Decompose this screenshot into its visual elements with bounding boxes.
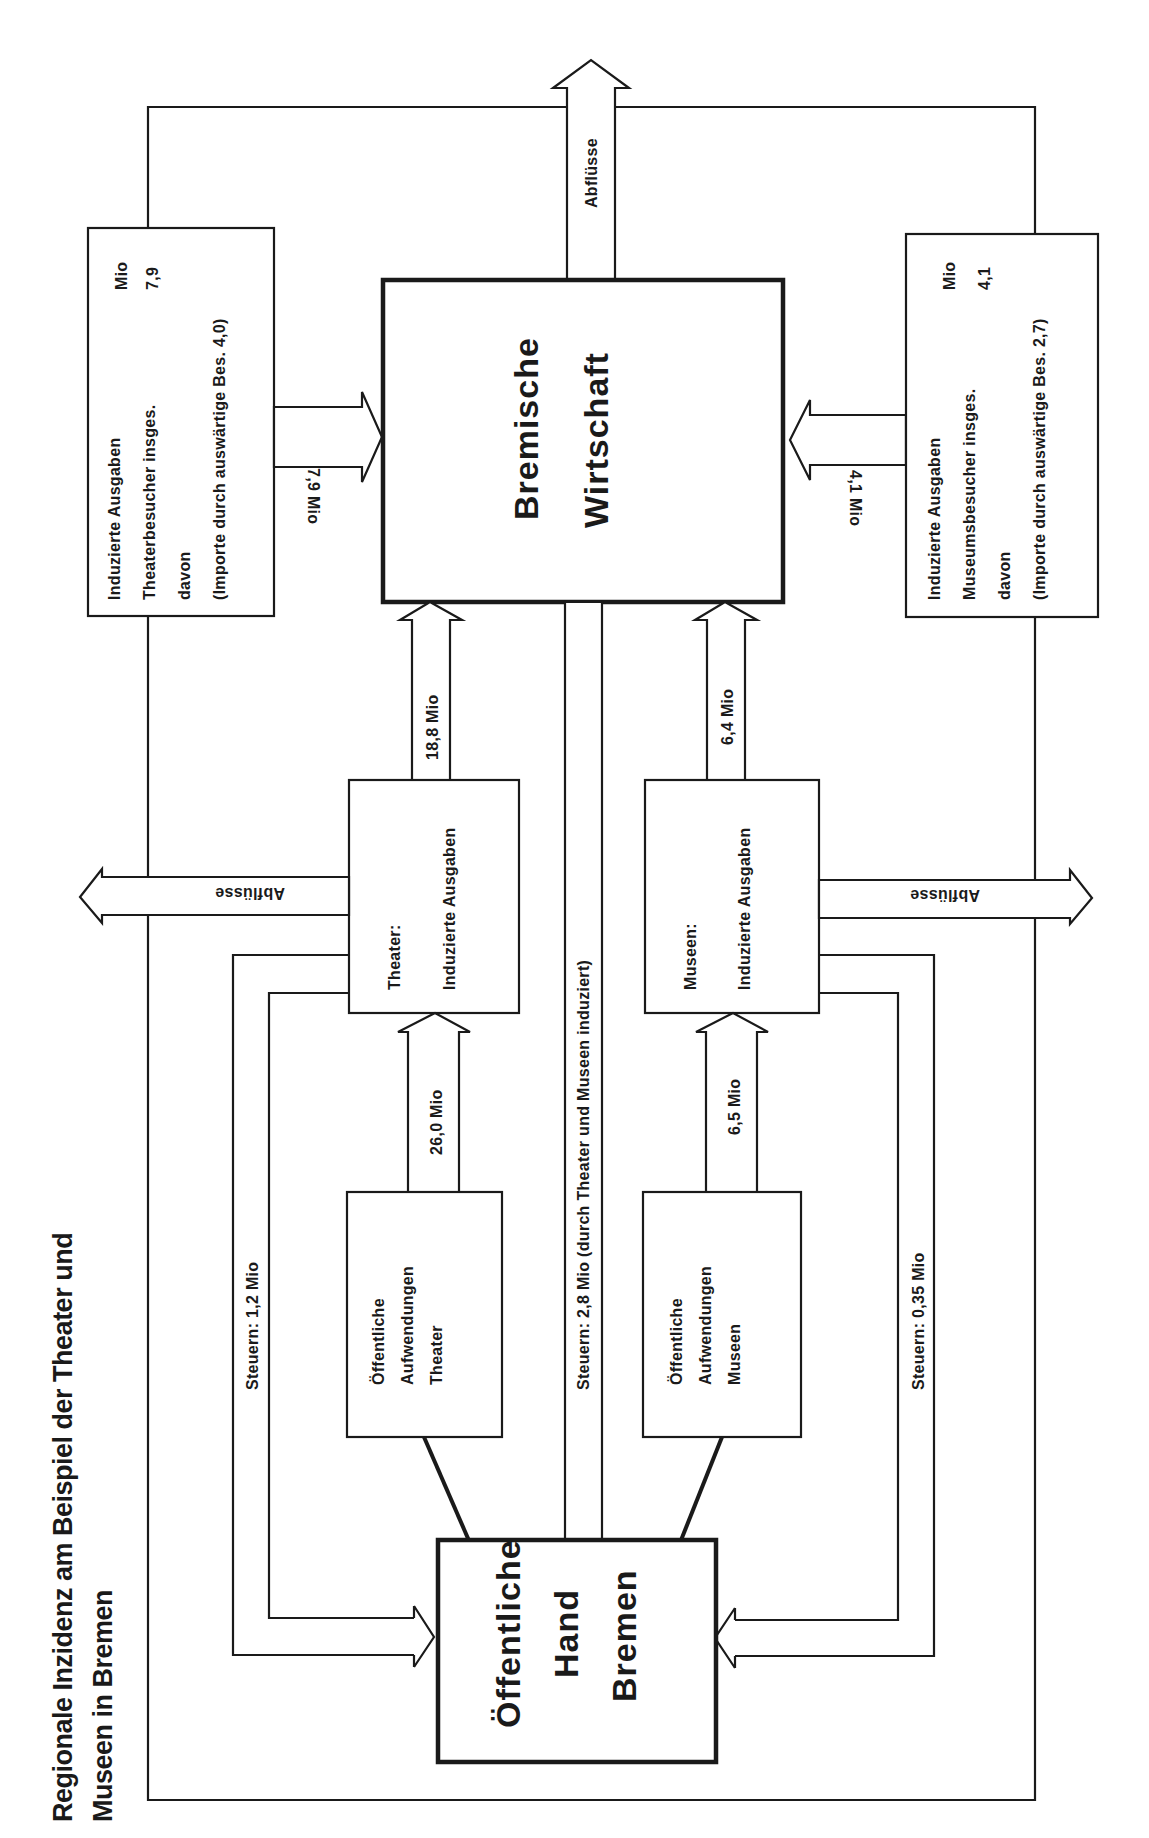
theater-induziert-box: Theater: Induzierte Ausgaben — [349, 780, 519, 1013]
bremische-wirtschaft-box: Bremische Wirtschaft — [383, 280, 783, 602]
svg-text:Theater:: Theater: — [386, 924, 403, 990]
theaterbesucher-box: Induzierte Ausgaben Theaterbesucher insg… — [88, 228, 274, 616]
aufwendungen-museen-box: Öffentliche Aufwendungen Museen — [643, 1192, 801, 1437]
svg-text:7,9 Mio: 7,9 Mio — [305, 468, 322, 524]
svg-text:Öffentliche: Öffentliche — [369, 1298, 387, 1385]
svg-text:Bremen: Bremen — [605, 1569, 643, 1702]
svg-text:Induzierte Ausgaben: Induzierte Ausgaben — [106, 438, 123, 600]
svg-text:4,1: 4,1 — [976, 267, 993, 290]
svg-text:Induzierte Ausgaben: Induzierte Ausgaben — [926, 438, 943, 600]
svg-text:6,4 Mio: 6,4 Mio — [719, 689, 736, 745]
svg-text:Aufwendungen: Aufwendungen — [697, 1266, 714, 1385]
oeffentliche-hand-box: Öffentliche Hand Bremen — [438, 1539, 716, 1762]
svg-text:Öffentliche: Öffentliche — [489, 1539, 527, 1728]
svg-text:Wirtschaft: Wirtschaft — [577, 352, 615, 528]
incidence-diagram: Abflüsse Induzierte Ausgaben Theaterbesu… — [0, 0, 1149, 1838]
svg-text:Hand: Hand — [547, 1589, 585, 1678]
svg-text:Theaterbesucher insges.: Theaterbesucher insges. — [141, 405, 158, 600]
svg-text:davon: davon — [176, 551, 193, 600]
svg-text:6,5 Mio: 6,5 Mio — [726, 1079, 743, 1135]
svg-text:Abflüsse: Abflüsse — [215, 885, 285, 902]
museen-induziert-box: Museen: Induzierte Ausgaben — [645, 780, 819, 1013]
svg-text:Theater: Theater — [428, 1325, 445, 1385]
arrow-museumsbesucher-to-wirtschaft: 4,1 Mio — [790, 400, 906, 526]
svg-text:Museen:: Museen: — [682, 923, 699, 990]
svg-text:Mio: Mio — [941, 262, 958, 290]
svg-text:Induzierte Ausgaben: Induzierte Ausgaben — [736, 828, 753, 990]
svg-text:7,9: 7,9 — [144, 267, 161, 290]
svg-text:(Importe durch auswärtige Bes: (Importe durch auswärtige Bes. 2,7) — [1031, 318, 1048, 600]
arrow-aufwendungen-to-theater: 26,0 Mio — [398, 1013, 470, 1192]
arrow-steuern-wirtschaft: Steuern: 2,8 Mio (durch Theater und Muse… — [550, 602, 613, 1657]
title-line-2: Museen in Bremen — [88, 1590, 118, 1822]
svg-text:Öffentliche: Öffentliche — [667, 1298, 685, 1385]
abfluesse-top-label: Abflüsse — [583, 138, 600, 208]
svg-text:Mio: Mio — [113, 262, 130, 290]
svg-text:18,8 Mio: 18,8 Mio — [424, 694, 441, 760]
svg-text:4,1 Mio: 4,1 Mio — [847, 470, 864, 526]
svg-text:Bremische: Bremische — [507, 337, 545, 520]
svg-text:Steuern: 2,8 Mio (durch Thea: Steuern: 2,8 Mio (durch Theater und Muse… — [575, 960, 592, 1390]
svg-text:Abflüsse: Abflüsse — [910, 887, 980, 904]
svg-text:Steuern: 1,2 Mio: Steuern: 1,2 Mio — [244, 1262, 261, 1390]
arrow-museen-to-wirtschaft: 6,4 Mio — [695, 602, 757, 780]
svg-text:Induzierte Ausgaben: Induzierte Ausgaben — [441, 828, 458, 990]
svg-text:Museen: Museen — [726, 1324, 743, 1385]
abfluesse-left-arrow: Abflüsse — [80, 869, 349, 923]
svg-text:Aufwendungen: Aufwendungen — [399, 1266, 416, 1385]
arrow-theaterbesucher-to-wirtschaft: 7,9 Mio — [274, 392, 382, 524]
museumsbesucher-box: Induzierte Ausgaben Museumsbesucher insg… — [906, 234, 1098, 617]
svg-text:Steuern: 0,35 Mio: Steuern: 0,35 Mio — [910, 1252, 927, 1390]
svg-text:26,0 Mio: 26,0 Mio — [428, 1089, 445, 1155]
svg-text:(Importe durch auswärtige Bes: (Importe durch auswärtige Bes. 4,0) — [211, 318, 228, 600]
abfluesse-right-arrow: Abflüsse — [819, 870, 1092, 924]
arrow-theater-to-wirtschaft: 18,8 Mio — [400, 602, 462, 780]
svg-text:davon: davon — [996, 551, 1013, 600]
abfluesse-top-arrow: Abflüsse — [553, 60, 629, 280]
title-line-1: Regionale Inzidenz am Beispiel der Theat… — [48, 1233, 78, 1822]
arrow-aufwendungen-to-museen: 6,5 Mio — [696, 1013, 768, 1192]
aufwendungen-theater-box: Öffentliche Aufwendungen Theater — [347, 1192, 502, 1437]
diagram-title: Regionale Inzidenz am Beispiel der Theat… — [48, 1233, 118, 1822]
svg-text:Museumsbesucher insges.: Museumsbesucher insges. — [961, 389, 978, 600]
